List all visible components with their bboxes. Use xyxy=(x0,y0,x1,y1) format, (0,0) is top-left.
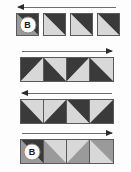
row-4-tile-strip: B xyxy=(20,139,114,164)
row-4-tile-2[interactable] xyxy=(44,140,67,163)
badge-b: B xyxy=(24,143,41,160)
arrow-shaft xyxy=(22,133,112,134)
row-2-tile-3[interactable] xyxy=(67,58,90,81)
row-2-tile-1[interactable] xyxy=(21,58,44,81)
row-3-tile-1[interactable] xyxy=(21,100,44,123)
row-3-tile-4[interactable] xyxy=(90,100,113,123)
row-1-tile-2[interactable] xyxy=(43,13,66,36)
arrow-shaft xyxy=(22,51,112,52)
row-2-arrow-right-icon xyxy=(22,48,112,55)
diagram-canvas: B xyxy=(0,0,131,172)
row-3-tile-strip xyxy=(20,99,114,124)
row-3-tile-3[interactable] xyxy=(67,100,90,123)
arrow-head xyxy=(17,4,24,10)
badge-b: B xyxy=(19,16,36,33)
row-4-tile-3[interactable] xyxy=(67,140,90,163)
arrow-shaft xyxy=(18,7,116,8)
row-1-arrow-left-icon xyxy=(18,4,116,11)
row-4-arrow-right-icon xyxy=(22,130,112,137)
row-1-tile-4[interactable] xyxy=(97,13,120,36)
arrow-head xyxy=(106,48,113,54)
row-3-tile-2[interactable] xyxy=(44,100,67,123)
row-2-tile-2[interactable] xyxy=(44,58,67,81)
arrow-shaft xyxy=(22,93,112,94)
row-1-tile-3[interactable] xyxy=(70,13,93,36)
arrow-head xyxy=(21,90,28,96)
row-4-tile-1[interactable]: B xyxy=(21,140,44,163)
row-2-tile-strip xyxy=(20,57,114,82)
arrow-head xyxy=(106,130,113,136)
row-3-arrow-left-icon xyxy=(22,90,112,97)
row-4-tile-4[interactable] xyxy=(90,140,113,163)
row-2-tile-4[interactable] xyxy=(90,58,113,81)
row-1-tile-1[interactable]: B xyxy=(16,13,39,36)
row-1-tile-strip: B xyxy=(16,13,120,36)
